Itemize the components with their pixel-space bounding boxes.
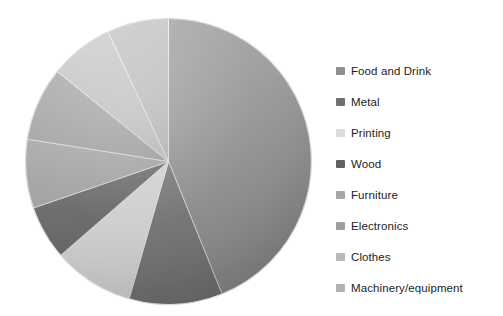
legend-item-label: Printing [351, 127, 391, 139]
legend-item[interactable]: Furniture [336, 179, 503, 210]
legend-item-label: Wood [351, 158, 381, 170]
legend-swatch-icon [336, 284, 345, 292]
pie-sheen-overlay [26, 19, 312, 305]
legend-item[interactable]: Clothes [336, 241, 503, 272]
pie-chart [24, 17, 313, 306]
legend-swatch-icon [336, 222, 345, 230]
legend-item[interactable]: Wood [336, 148, 503, 179]
legend-item-label: Clothes [351, 251, 391, 263]
legend: Food and DrinkMetalPrintingWoodFurniture… [336, 55, 503, 303]
legend-item[interactable]: Food and Drink [336, 55, 503, 86]
legend-item-label: Machinery/equipment [351, 282, 463, 294]
legend-item-label: Electronics [351, 220, 408, 232]
chart-page: Food and DrinkMetalPrintingWoodFurniture… [0, 0, 503, 316]
legend-item[interactable]: Metal [336, 86, 503, 117]
legend-item[interactable]: Printing [336, 117, 503, 148]
legend-item[interactable]: Machinery/equipment [336, 272, 503, 303]
legend-item-label: Food and Drink [351, 65, 431, 77]
legend-swatch-icon [336, 67, 345, 75]
legend-swatch-icon [336, 253, 345, 261]
legend-item-label: Furniture [351, 189, 398, 201]
legend-swatch-icon [336, 129, 345, 137]
legend-swatch-icon [336, 191, 345, 199]
pie-chart-svg [24, 17, 313, 306]
legend-swatch-icon [336, 98, 345, 106]
legend-item-label: Metal [351, 96, 380, 108]
legend-item[interactable]: Electronics [336, 210, 503, 241]
legend-swatch-icon [336, 160, 345, 168]
